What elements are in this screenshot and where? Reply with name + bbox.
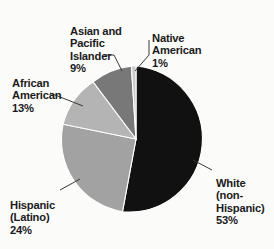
slice-value-hispanic: 24% <box>10 224 55 237</box>
slice-label-hispanic-text: Hispanic (Latino) <box>10 199 55 224</box>
pie-slice-hispanic-latino[interactable] <box>61 124 136 212</box>
slice-value-asian: 9% <box>70 62 122 75</box>
slice-value-white: 53% <box>216 214 265 227</box>
slice-label-white-text: White (non- Hispanic) <box>216 177 265 214</box>
pie-chart-figure: Asian and Pacific Islander 9% Native Ame… <box>0 0 274 249</box>
slice-label-native-american: Native American 1% <box>152 19 201 82</box>
slice-label-white-non-hispanic: White (non- Hispanic) 53% <box>216 164 265 240</box>
slice-label-asian-pacific-islander: Asian and Pacific Islander 9% <box>70 12 122 88</box>
slice-label-native-text: Native American <box>152 32 201 57</box>
slice-value-native: 1% <box>152 57 201 70</box>
slice-value-african: 13% <box>12 102 61 115</box>
slice-label-african-text: African American <box>12 77 61 102</box>
slice-label-hispanic-latino: Hispanic (Latino) 24% <box>10 186 55 249</box>
slice-label-african-american: African American 13% <box>12 64 61 127</box>
slice-label-asian-text: Asian and Pacific Islander <box>70 25 122 62</box>
